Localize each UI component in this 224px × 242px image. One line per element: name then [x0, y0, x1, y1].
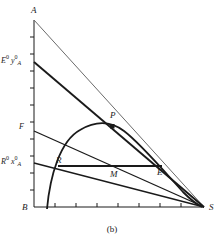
geometric-diagram [0, 0, 224, 242]
label-axis-f: F [19, 123, 24, 131]
label-e0-superscript: 0 [6, 54, 9, 60]
point-marker-p [110, 124, 115, 129]
line-a-to-s [34, 20, 204, 207]
label-axis-e0-y0a: E0y0A [1, 54, 21, 66]
label-y0-subscript: A [17, 60, 21, 66]
label-r0-superscript: 0 [6, 155, 9, 161]
figure-caption: (b) [0, 224, 224, 234]
label-point-m: M [110, 170, 118, 179]
label-point-p: P [110, 111, 116, 120]
label-x0-subscript: A [17, 161, 21, 167]
label-vertex-b: B [22, 203, 28, 212]
label-point-r: R [56, 156, 62, 165]
label-vertex-s: S [209, 203, 214, 212]
bottom-axis-ticks [55, 203, 181, 207]
label-vertex-a: A [31, 6, 37, 15]
label-point-e: E [157, 168, 163, 177]
left-axis-ticks [30, 37, 34, 190]
figure-panel-b: A B S E0y0A F R0x0A P R M E (b) [0, 0, 224, 242]
label-axis-r0-x0a: R0x0A [1, 155, 21, 167]
